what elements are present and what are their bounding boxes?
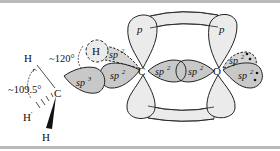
svg-text:': ' (31, 110, 32, 118)
h-aldehyde-label: H (92, 45, 100, 57)
bond-c-h-wedge (46, 96, 56, 129)
p-orbital-carbon-bottom (127, 75, 155, 119)
p-carbon-label: p (136, 23, 143, 35)
oxygen-label: O (213, 65, 221, 77)
svg-text:sp: sp (229, 55, 238, 66)
svg-text:sp: sp (110, 70, 119, 81)
svg-text:sp: sp (109, 49, 118, 60)
angle-arc-trigonal (78, 46, 83, 68)
trigonal-angle-label: ~120° (49, 53, 75, 64)
h-top-label: H (24, 52, 32, 64)
svg-text:2: 2 (121, 47, 125, 54)
h-wedge-label: H (42, 131, 50, 143)
tetrahedral-angle-label: ~109.5° (8, 84, 42, 95)
sp2-orbital-carbon-methyl (100, 63, 140, 88)
methyl-carbon-label: C (54, 87, 61, 99)
diagram-frame: H H ' H C ~109.5° ~120° H C O p p sp 3 s… (0, 0, 280, 151)
bond-c-h-hashed (36, 93, 53, 108)
svg-text:sp: sp (188, 66, 197, 77)
svg-text:sp: sp (238, 70, 247, 81)
p-orbital-oxygen-bottom (207, 75, 235, 118)
p-oxygen-label: p (218, 23, 225, 35)
svg-text:sp: sp (155, 66, 164, 77)
svg-text:sp: sp (76, 77, 85, 88)
carbonyl-orbital-diagram: H H ' H C ~109.5° ~120° H C O p p sp 3 s… (0, 0, 280, 151)
carbonyl-carbon-label: C (138, 65, 145, 77)
h-back-label: H (23, 111, 31, 123)
